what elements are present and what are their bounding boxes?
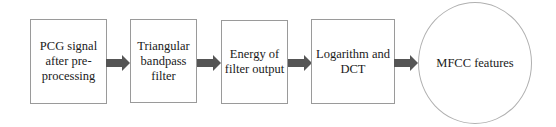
arrow-right-icon bbox=[394, 54, 419, 72]
arrow-right-icon bbox=[106, 54, 131, 72]
node-label: PCG signal after pre- processing bbox=[40, 39, 97, 84]
node-label: Energy of filter output bbox=[225, 47, 284, 77]
node-triangular-filter: Triangular bandpass filter bbox=[130, 19, 197, 103]
node-mfcc-features: MFCC features bbox=[418, 2, 532, 124]
node-log-dct: Logarithm and DCT bbox=[311, 19, 395, 104]
node-filter-energy: Energy of filter output bbox=[221, 20, 288, 104]
node-label: Triangular bandpass filter bbox=[137, 39, 189, 84]
node-label: MFCC features bbox=[436, 56, 513, 71]
arrow-right-icon bbox=[197, 54, 222, 72]
node-pcg-signal: PCG signal after pre- processing bbox=[30, 19, 107, 104]
node-label: Logarithm and DCT bbox=[316, 47, 390, 77]
arrow-right-icon bbox=[288, 54, 313, 72]
